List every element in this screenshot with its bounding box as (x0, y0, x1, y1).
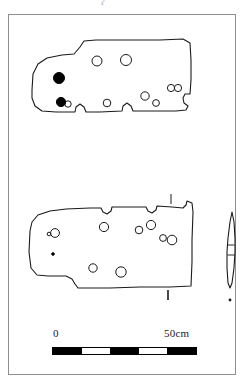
scale-bar-segment-4 (139, 348, 168, 354)
scale-bar-segment-5 (167, 348, 196, 354)
scale-bar-segment-2 (82, 348, 111, 354)
scale-bar-segment-1 (53, 348, 82, 354)
scale-bar-segment-3 (110, 348, 139, 354)
scale-max-label: 50cm (164, 327, 189, 339)
figure-frame-border (8, 14, 236, 375)
scale-bar (52, 347, 197, 355)
scale-zero-label: 0 (53, 327, 59, 339)
top-cut-mark: ʔ (100, 0, 122, 6)
figure-page: ʔ 0 50cm (0, 0, 252, 391)
